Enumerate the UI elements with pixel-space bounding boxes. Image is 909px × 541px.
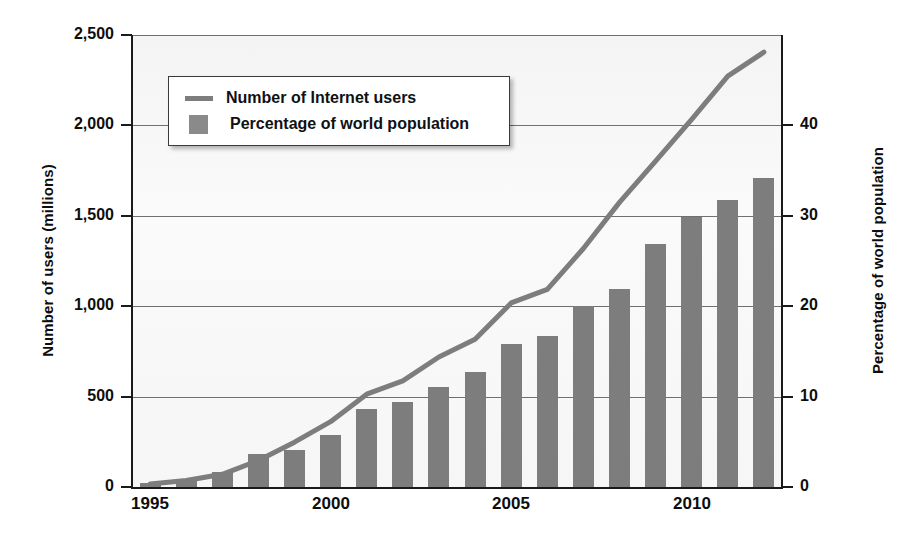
y-axis-left-tick [121, 34, 132, 36]
bar-2004 [465, 372, 486, 487]
x-axis-tick-label: 1995 [131, 494, 169, 514]
legend-item-line: Number of Internet users [185, 85, 509, 111]
bar-2000 [320, 435, 341, 487]
y-axis-right-tick-label: 30 [800, 206, 818, 224]
bar-1997 [212, 472, 233, 487]
bar-2007 [573, 306, 594, 487]
x-axis-tick-label: 2005 [492, 494, 530, 514]
bar-2011 [717, 200, 738, 487]
y-axis-left-tick [121, 396, 132, 398]
bar-2009 [645, 244, 666, 487]
x-axis-tick-label: 2010 [673, 494, 711, 514]
bar-1998 [248, 454, 269, 487]
bar-2012 [753, 178, 774, 487]
bar-2008 [609, 289, 630, 487]
y-axis-right-tick-label: 10 [800, 387, 818, 405]
y-axis-left-tick-label: 500 [87, 387, 114, 405]
box-swatch-icon [189, 115, 208, 134]
y-axis-left-tick-label: 1,500 [74, 206, 114, 224]
legend-label-world-population: Percentage of world population [230, 115, 469, 133]
y-axis-left-line [131, 35, 133, 489]
y-axis-left-tick-label: 2,000 [74, 115, 114, 133]
bar-2003 [428, 387, 449, 487]
y-axis-left-title: Number of users (millions) [39, 111, 56, 411]
y-axis-right-tick-label: 20 [800, 296, 818, 314]
bar-2006 [537, 336, 558, 487]
x-axis-line [131, 487, 783, 489]
y-axis-right-tick [782, 486, 793, 488]
chart-legend: Number of Internet users Percentage of w… [168, 76, 510, 146]
y-axis-right-tick-label: 0 [800, 477, 809, 495]
y-axis-right-tick [782, 124, 793, 126]
bar-2001 [356, 409, 377, 487]
y-axis-left-tick [121, 215, 132, 217]
y-axis-right-tick-label: 40 [800, 115, 818, 133]
y-axis-left-tick [121, 124, 132, 126]
y-axis-right-tick [782, 305, 793, 307]
bar-2002 [392, 402, 413, 487]
y-axis-left-tick [121, 305, 132, 307]
y-axis-left-tick-label: 0 [105, 477, 114, 495]
line-swatch-icon [185, 96, 213, 101]
gridline [132, 35, 782, 36]
y-axis-left-tick-label: 1,000 [74, 296, 114, 314]
y-axis-right-tick [782, 396, 793, 398]
internet-users-chart: 05001,0001,5002,0002,5000102030401995200… [0, 0, 909, 541]
legend-label-internet-users: Number of Internet users [226, 89, 416, 107]
y-axis-right-tick [782, 215, 793, 217]
y-axis-right-line [781, 35, 783, 489]
bar-2010 [681, 217, 702, 487]
x-axis-tick-label: 2000 [312, 494, 350, 514]
legend-item-bar: Percentage of world population [185, 111, 509, 137]
y-axis-right-title: Percentage of world population [869, 111, 886, 411]
bar-1999 [284, 450, 305, 487]
y-axis-left-tick-label: 2,500 [74, 25, 114, 43]
bar-2005 [501, 344, 522, 487]
y-axis-left-tick [121, 486, 132, 488]
bar-1996 [176, 479, 197, 487]
